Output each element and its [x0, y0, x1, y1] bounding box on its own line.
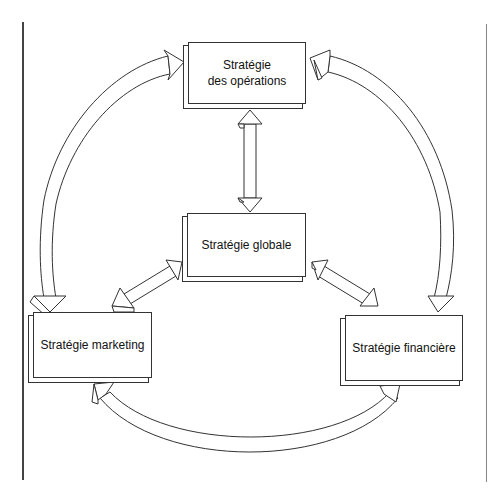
node-label: Stratégie marketing	[40, 337, 144, 353]
node-label: Stratégie des opérations	[208, 57, 287, 89]
arc-arrow-marketing-finance	[92, 382, 400, 452]
node-operations-strategy: Stratégie des opérations	[188, 42, 306, 104]
double-arrow-global-finance	[312, 260, 378, 306]
strategy-diagram: Stratégie des opérations Stratégie globa…	[0, 0, 499, 492]
double-arrow-global-operations	[238, 110, 262, 212]
double-arrow-global-marketing	[112, 260, 182, 312]
node-marketing-strategy: Stratégie marketing	[33, 312, 152, 378]
node-financial-strategy: Stratégie financière	[345, 315, 463, 381]
node-label: Stratégie financière	[352, 340, 455, 356]
node-global-strategy: Stratégie globale	[187, 213, 306, 277]
node-label: Stratégie globale	[201, 237, 291, 253]
